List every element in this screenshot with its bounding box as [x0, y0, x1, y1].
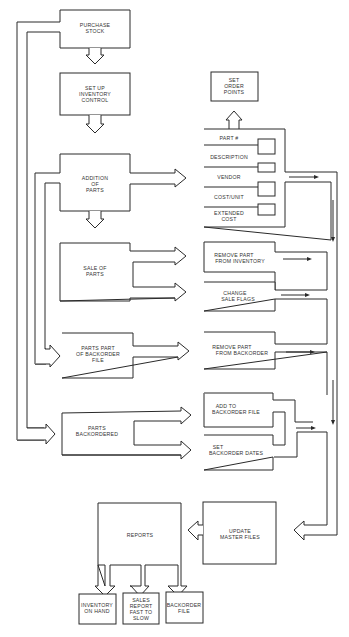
node-sale-of-parts: SALE OF PARTS	[60, 243, 175, 301]
arrow-into-update-master	[294, 521, 304, 540]
label-addition-3: PARTS	[86, 187, 104, 193]
arrow-into-parts-backordered	[17, 424, 55, 444]
field-part-number: PART #	[220, 135, 239, 141]
label-csf-2: SALE FLAGS	[221, 296, 255, 302]
node-addition-of-parts: ADDITION OF PARTS	[60, 154, 175, 211]
arrow-into-reports	[188, 521, 203, 540]
arrow-into-backorder-file	[35, 345, 60, 367]
label-atb-2: BACKORDER FILE	[212, 409, 260, 415]
arrow-right-pb-1	[181, 407, 191, 424]
node-reports: REPORTS	[98, 503, 181, 586]
label-bf-2: FILE	[178, 608, 190, 614]
arrow-right-sale-1	[175, 247, 186, 265]
feedback-lines	[17, 22, 60, 440]
field-cost-unit: COST/UNIT	[214, 194, 244, 200]
field-vendor: VENDOR	[217, 174, 240, 180]
field-extended-cost-2: COST	[221, 216, 237, 222]
label-sbd-2: BACKORDER DATES	[209, 450, 264, 456]
label-rfi-2: FROM INVENTORY	[215, 258, 265, 264]
report-sales-fast-to-slow: SALES REPORT FAST TO SLOW	[123, 593, 159, 624]
label-sales-4: SLOW	[133, 615, 149, 621]
report-backorder-file: BACKORDER FILE	[166, 592, 203, 623]
node-parts-part-of-backorder: PARTS PART OF BACKORDER FILE	[62, 333, 178, 378]
label-ioh-2: ON HAND	[84, 608, 109, 614]
arrow-down-addition	[86, 211, 104, 228]
label-setup-3: CONTROL	[82, 97, 109, 103]
arrow-right-ppob	[178, 342, 189, 360]
node-purchase-stock: PURCHASE STOCK	[60, 10, 130, 48]
arrow-up-set-order-points	[226, 111, 242, 129]
arrow-down-purchase	[86, 48, 104, 64]
label-umf-2: MASTER FILES	[220, 534, 260, 540]
report-inventory-on-hand: INVENTORY ON HAND	[79, 594, 116, 624]
arrow-right-sale-2	[175, 283, 186, 301]
label-purchase-stock-2: STOCK	[86, 28, 105, 34]
node-parts-backordered: PARTS BACKORDERED	[62, 411, 181, 455]
node-remove-from-backorder: REMOVE PART FROM BACKORDER	[204, 332, 327, 395]
arrow-right-pb-2	[181, 441, 191, 459]
label-ppob-3: FILE	[92, 357, 104, 363]
node-part-record: PART # DESCRIPTION VENDOR COST/UNIT EXTE…	[204, 129, 337, 240]
label-reports: REPORTS	[127, 532, 154, 538]
inventory-flowchart: PURCHASE STOCK SET UP INVENTORY CONTROL …	[0, 0, 349, 637]
label-pb-2: BACKORDERED	[76, 431, 118, 437]
node-setup-inventory: SET UP INVENTORY CONTROL	[60, 73, 130, 115]
node-update-master-files: UPDATE MASTER FILES	[203, 502, 276, 564]
label-sop-3: POINTS	[224, 89, 245, 95]
node-set-order-points: SET ORDER POINTS	[211, 72, 258, 101]
arrow-right-addition	[175, 169, 186, 187]
arrow-down-setup	[86, 115, 104, 133]
label-rfb-2: FROM BACKORDER	[216, 350, 268, 356]
field-description: DESCRIPTION	[210, 154, 248, 160]
node-set-backorder-dates: SET BACKORDER DATES	[204, 435, 273, 470]
label-sale-2: PARTS	[86, 271, 104, 277]
